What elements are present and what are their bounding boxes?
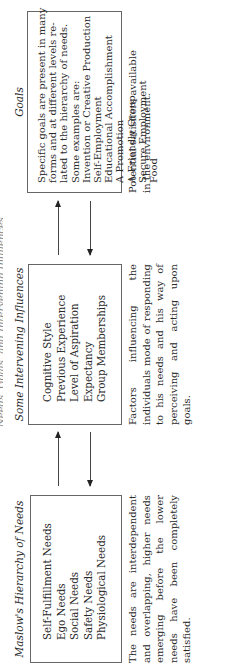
influence-item: Level of Aspiration	[68, 274, 82, 402]
influences-caption: Factors influencing the individuals mode…	[126, 264, 194, 425]
arrow-left-icon	[90, 201, 91, 255]
goal-item: Invention or Creative Production	[81, 21, 92, 183]
figure-title-cutoff: Needs, Goals, and Intervening Influences	[0, 172, 3, 472]
goals-intro-line: lated to the hierarchy of needs.	[58, 21, 69, 183]
goals-heading: Goals	[13, 11, 25, 193]
influence-item: Cognitive Style	[41, 274, 55, 402]
arrow-right-icon	[58, 432, 59, 486]
goal-item: Self-Employment	[92, 21, 103, 183]
arrow-left-icon	[90, 432, 91, 486]
goals-caption: Potential satisfiers available in the en…	[126, 43, 153, 193]
maslow-item: Safety Needs	[82, 505, 96, 640]
maslow-heading: Maslow's Hierarchy of Needs	[13, 495, 25, 663]
goal-item: A Promotion	[114, 21, 125, 183]
influence-item: Group Memberships	[95, 274, 109, 402]
goals-box: Specific goals are present in many forms…	[27, 11, 122, 193]
influences-box: Cognitive Style Previous Experience Leve…	[28, 264, 122, 425]
maslow-caption: The needs are interdependent and overlap…	[126, 495, 194, 663]
influence-item: Expectancy	[82, 274, 96, 402]
maslow-item: Ego Needs	[55, 505, 69, 640]
goals-intro-line: Some examples are:	[70, 21, 81, 183]
maslow-box: Self-Fulfillment Needs Ego Needs Social …	[30, 495, 122, 663]
goals-intro-line: Specific goals are present in many	[36, 21, 47, 183]
maslow-item: Physiological Needs	[95, 505, 109, 640]
influence-item: Previous Experience	[55, 274, 69, 402]
influences-heading: Some Intervening Influences	[13, 264, 25, 425]
maslow-item: Self-Fulfillment Needs	[41, 505, 55, 640]
diagram-canvas: Needs, Goals, and Intervening Influences…	[0, 0, 231, 672]
goals-intro-line: forms and at different levels re-	[47, 21, 58, 183]
arrow-right-icon	[58, 201, 59, 255]
goal-item: Educational Accomplishment	[103, 21, 114, 183]
maslow-item: Social Needs	[68, 505, 82, 640]
